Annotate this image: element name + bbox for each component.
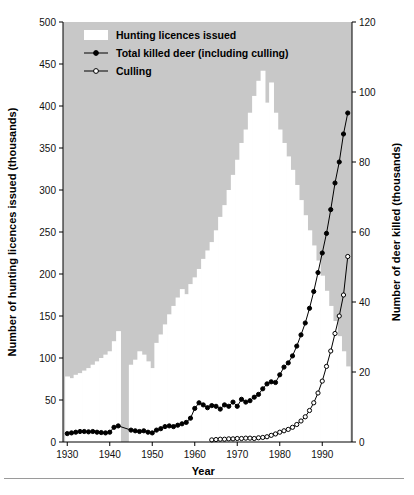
bar — [265, 103, 270, 442]
bar — [295, 185, 300, 442]
bar — [180, 289, 185, 442]
x-tick-label: 1980 — [269, 449, 292, 460]
y-tick-label-right: 60 — [359, 227, 371, 238]
data-point — [295, 344, 299, 348]
data-point — [324, 364, 328, 368]
y-tick-label-right: 20 — [359, 367, 371, 378]
data-point — [146, 430, 150, 434]
data-point — [333, 181, 337, 185]
data-point — [91, 429, 95, 433]
data-point — [103, 431, 107, 435]
data-point — [282, 365, 286, 369]
data-point — [295, 422, 299, 426]
y-axis-title-right: Number of deer killed (thousands) — [390, 142, 402, 321]
data-point — [180, 422, 184, 426]
data-point — [210, 438, 214, 442]
bar — [346, 366, 351, 442]
data-point — [286, 427, 290, 431]
data-point — [184, 420, 188, 424]
data-point — [167, 424, 171, 428]
data-point — [286, 361, 290, 365]
bar — [171, 306, 176, 442]
x-tick-label: 1950 — [141, 449, 164, 460]
data-point — [150, 431, 154, 435]
data-point — [273, 432, 277, 436]
data-point — [316, 271, 320, 275]
data-point — [163, 425, 167, 429]
y-tick-label-left: 500 — [39, 17, 56, 28]
data-point — [193, 406, 197, 410]
y-tick-label-left: 100 — [39, 353, 56, 364]
data-point — [303, 321, 307, 325]
data-point — [210, 404, 214, 408]
y-tick-label-left: 150 — [39, 311, 56, 322]
data-point — [222, 403, 226, 407]
data-point — [133, 429, 137, 433]
bar — [248, 113, 253, 442]
data-point — [269, 433, 273, 437]
data-point — [205, 406, 209, 410]
legend-marker-culling — [94, 69, 99, 74]
data-point — [69, 431, 73, 435]
data-point — [312, 289, 316, 293]
y-tick-label-right: 100 — [359, 87, 376, 98]
data-point — [346, 111, 350, 115]
bar — [201, 259, 206, 442]
bar — [137, 351, 142, 442]
data-point — [278, 430, 282, 434]
data-point — [269, 380, 273, 384]
bar — [176, 298, 181, 442]
data-point — [239, 397, 243, 401]
data-point — [248, 399, 252, 403]
data-point — [299, 419, 303, 423]
data-point — [265, 382, 269, 386]
legend-label: Culling — [116, 65, 152, 77]
bar — [341, 351, 346, 442]
y-tick-label-right: 120 — [359, 17, 376, 28]
bar — [329, 306, 334, 442]
data-point — [82, 429, 86, 433]
data-point — [341, 132, 345, 136]
bar — [103, 355, 108, 442]
bar — [290, 170, 295, 442]
bar — [252, 96, 257, 442]
data-point — [299, 333, 303, 337]
data-point — [337, 314, 341, 318]
data-point — [265, 435, 269, 439]
bar — [269, 82, 274, 442]
data-point — [244, 436, 248, 440]
x-tick-label: 1960 — [184, 449, 207, 460]
bar — [286, 156, 291, 442]
data-point — [99, 430, 103, 434]
bar — [312, 245, 317, 442]
y-tick-label-left: 300 — [39, 185, 56, 196]
data-point — [316, 391, 320, 395]
data-point — [227, 404, 231, 408]
data-point — [112, 425, 116, 429]
y-tick-label-left: 250 — [39, 227, 56, 238]
legend-swatch-licences — [84, 30, 108, 40]
data-point — [290, 354, 294, 358]
x-axis-title: Year — [192, 465, 216, 477]
legend-label: Hunting licences issued — [116, 29, 236, 41]
data-point — [142, 429, 146, 433]
bar — [320, 276, 325, 442]
data-point — [278, 373, 282, 377]
data-point — [231, 400, 235, 404]
data-point — [235, 436, 239, 440]
data-point — [222, 437, 226, 441]
data-point — [197, 401, 201, 405]
data-point — [256, 436, 260, 440]
bar — [154, 343, 159, 442]
x-tick-label: 1990 — [311, 449, 334, 460]
data-point — [256, 392, 260, 396]
data-point — [86, 430, 90, 434]
data-point — [341, 293, 345, 297]
data-point — [282, 429, 286, 433]
legend-marker-total-killed — [94, 51, 99, 56]
y-tick-label-left: 200 — [39, 269, 56, 280]
data-point — [329, 349, 333, 353]
figure-caption — [4, 481, 410, 494]
data-point — [252, 436, 256, 440]
data-point — [137, 429, 141, 433]
